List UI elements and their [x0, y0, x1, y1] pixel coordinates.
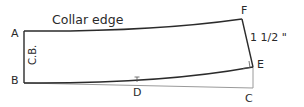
point-d-label: D — [133, 87, 141, 98]
point-c-label: C — [245, 93, 253, 104]
collar-pattern-diagram — [0, 0, 304, 107]
right-angle-mark — [243, 61, 250, 69]
neckline-curve — [24, 67, 253, 83]
point-e-label: E — [257, 59, 264, 70]
point-f-label: F — [241, 5, 247, 16]
center-back-label: C.B. — [28, 45, 38, 65]
point-b-label: B — [11, 75, 19, 86]
point-a-label: A — [11, 28, 19, 39]
collar-edge-label: Collar edge — [52, 14, 123, 27]
measurement-label: 1 1/2 " — [250, 32, 287, 43]
